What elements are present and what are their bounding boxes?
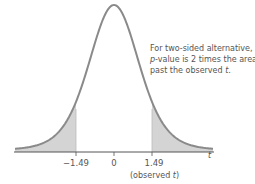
observed-t-label: (observed t) — [130, 171, 179, 181]
annotation-line-2: p-value is 2 times the area — [150, 55, 255, 65]
annotation-line-3: past the observed t. — [150, 66, 231, 76]
tick-label-pos: 1.49 — [145, 158, 164, 168]
tick-label-neg: −1.49 — [63, 158, 89, 168]
right-tail-shade — [15, 5, 213, 152]
tick-label-zero: 0 — [111, 158, 116, 168]
annotation-line-1: For two-sided alternative, — [150, 44, 253, 54]
density-curve — [15, 5, 213, 149]
left-tail-shade — [15, 5, 213, 152]
t-distribution-plot — [0, 0, 255, 184]
axis-label-t: t — [208, 151, 211, 161]
